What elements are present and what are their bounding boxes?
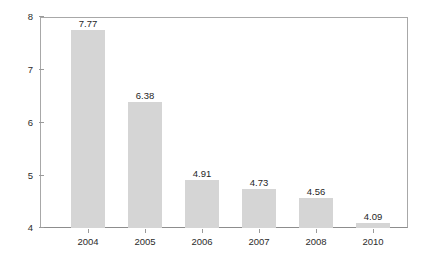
x-axis-tick-mark [259, 229, 260, 233]
bar-value-label: 4.73 [250, 177, 269, 188]
x-axis-tick-label: 2004 [77, 236, 98, 248]
bar-value-label: 6.38 [136, 90, 155, 101]
bars-layer: 7.77 6.38 4.91 4.73 4.56 4.09 [0, 0, 432, 272]
bar-item[interactable]: 7.77 [71, 30, 105, 228]
bar-item[interactable]: 4.09 [356, 223, 390, 228]
x-axis-tick-label: 2005 [134, 236, 155, 248]
x-axis-tick-label: 2006 [191, 236, 212, 248]
bar-item[interactable]: 4.73 [242, 189, 276, 228]
x-axis-tick-mark [373, 229, 374, 233]
x-axis-tick-label: 2007 [248, 236, 269, 248]
bar-rect[interactable] [71, 30, 105, 228]
bar-item[interactable]: 4.56 [299, 198, 333, 228]
bar-item[interactable]: 6.38 [128, 102, 162, 228]
bar-item[interactable]: 4.91 [185, 180, 219, 228]
x-axis-tick-mark [316, 229, 317, 233]
bar-rect[interactable] [299, 198, 333, 228]
bar-rect[interactable] [356, 223, 390, 228]
bar-value-label: 4.09 [364, 211, 383, 222]
bar-value-label: 7.77 [79, 18, 98, 29]
bar-value-label: 4.91 [193, 168, 212, 179]
bar-value-label: 4.56 [307, 186, 326, 197]
x-axis-tick-mark [88, 229, 89, 233]
bar-rect[interactable] [185, 180, 219, 228]
bar-rect[interactable] [242, 189, 276, 228]
x-axis-tick-label: 2008 [305, 236, 326, 248]
bar-rect[interactable] [128, 102, 162, 228]
x-axis-tick-mark [202, 229, 203, 233]
bar-chart: 8 7 6 5 4 7.77 6.38 4.91 [0, 0, 432, 272]
x-axis-tick-mark [145, 229, 146, 233]
x-axis-tick-label: 2010 [362, 236, 383, 248]
